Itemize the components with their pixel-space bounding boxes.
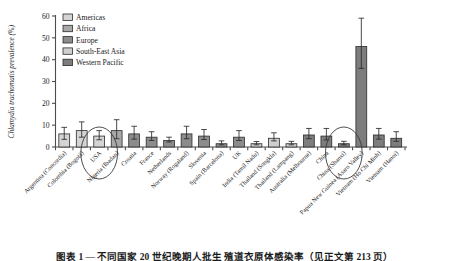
x-tick-group bbox=[56, 147, 406, 150]
x-tick-label: USA bbox=[89, 149, 103, 163]
figure-container: 0102030405060Chlamydia trachomatis preva… bbox=[0, 0, 449, 261]
chlamydia-prevalence-bar-chart: 0102030405060Chlamydia trachomatis preva… bbox=[0, 0, 449, 261]
x-tick-label: Nigeria (Ibadan) bbox=[85, 149, 120, 184]
x-tick-label-group: Argentina (Concordia)Colombia (Bogotá)US… bbox=[22, 149, 400, 217]
legend-swatch-americas bbox=[63, 14, 73, 20]
y-axis-title: Chlamydia trachomatis prevalence (%) bbox=[8, 24, 16, 138]
legend-group: AmericasAfricaEuropeSouth-East AsiaWeste… bbox=[63, 13, 125, 67]
legend-label-africa: Africa bbox=[76, 24, 96, 33]
y-tick-label: 10 bbox=[42, 121, 50, 130]
y-tick-label: 0 bbox=[46, 143, 50, 152]
legend-label-western-pacific: Western Pacific bbox=[76, 58, 124, 67]
y-tick-label: 50 bbox=[42, 34, 50, 43]
legend-swatch-south-east-asia bbox=[63, 48, 73, 54]
x-tick-label: UK bbox=[231, 149, 243, 161]
axes-group bbox=[56, 15, 408, 147]
legend-label-americas: Americas bbox=[76, 13, 105, 22]
x-tick-label: Croatia bbox=[119, 149, 137, 167]
error-bars-group bbox=[61, 18, 399, 145]
legend-label-europe: Europe bbox=[76, 36, 99, 45]
figure-caption: 图表 1 — 不同国家 20 世纪晚期人批生 殖道衣原体感染率（见正文第 213… bbox=[56, 251, 393, 261]
legend-swatch-europe bbox=[63, 37, 73, 43]
y-tick-label: 20 bbox=[42, 99, 50, 108]
legend-swatch-africa bbox=[63, 25, 73, 31]
x-tick-label: Vietnam (Hanoi) bbox=[364, 149, 400, 185]
y-tick-label: 60 bbox=[42, 12, 50, 21]
legend-label-south-east-asia: South-East Asia bbox=[76, 47, 125, 56]
legend-swatch-western-pacific bbox=[63, 59, 73, 65]
x-tick-label: China bbox=[314, 149, 330, 165]
y-tick-label: 40 bbox=[42, 55, 50, 64]
y-tick-label: 30 bbox=[42, 77, 50, 86]
y-tick-group: 0102030405060 bbox=[42, 12, 56, 152]
